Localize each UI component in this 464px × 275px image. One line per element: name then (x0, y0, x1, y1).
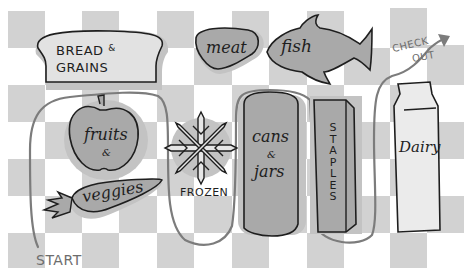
dairy-label: Dairy (399, 140, 440, 155)
staples-letter: A (326, 145, 340, 157)
carrot-greens (44, 192, 72, 218)
bread-label-line1: BREAD (56, 43, 104, 58)
dairy-shape (394, 82, 440, 232)
meat-label: meat (206, 40, 247, 56)
snowflake-shape (165, 112, 237, 184)
cans-amp: & (267, 150, 276, 160)
staples-letter: S (326, 191, 340, 203)
store-map: BREAD & GRAINS meat fish fruits & veggie… (0, 0, 464, 275)
fruits-label: fruits (84, 127, 128, 143)
fruits-amp: & (102, 148, 111, 158)
cans-label: cans (252, 129, 289, 145)
bread-label: BREAD & (56, 44, 116, 57)
bread-label-amp: & (108, 43, 116, 53)
staples-letter: S (326, 122, 340, 134)
staples-letter: L (326, 168, 340, 180)
jars-label: jars (254, 164, 284, 180)
grains-label: GRAINS (56, 61, 108, 74)
frozen-label: FROZEN (180, 187, 228, 198)
fish-label: fish (281, 38, 312, 55)
staples-label: S T A P L E S (326, 122, 340, 203)
start-label: START (36, 253, 82, 267)
